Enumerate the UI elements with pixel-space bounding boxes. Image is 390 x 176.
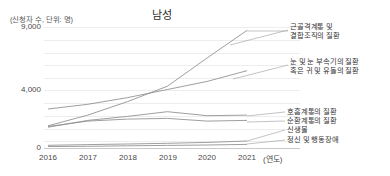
x-tick-2019: 2019 bbox=[159, 153, 177, 162]
series-label-eye-ear-line2: 혹은 귀 및 유돌의 질환 bbox=[290, 66, 359, 75]
x-tick-2020: 2020 bbox=[198, 153, 216, 162]
x-tick-2021: 2021 bbox=[238, 153, 256, 162]
x-tick-2016: 2016 bbox=[39, 153, 57, 162]
x-tick-2017: 2017 bbox=[79, 153, 97, 162]
series-line-respiratory bbox=[48, 112, 247, 128]
y-tick-4000: 4,000 bbox=[21, 85, 41, 94]
series-label-musculoskeletal: 근골격계통 및 결합조직의 질환 bbox=[290, 22, 340, 40]
leader-circulatory bbox=[247, 121, 285, 122]
series-line-circulatory bbox=[48, 118, 247, 126]
x-tick-2018: 2018 bbox=[119, 153, 137, 162]
label-leader-lines bbox=[230, 30, 288, 144]
series-label-musculoskeletal-line1: 근골격계통 및 bbox=[290, 22, 340, 31]
x-axis-unit-label: (연도) bbox=[263, 153, 282, 164]
chart-container: (신청자 수, 단위: 명) 남성 bbox=[0, 0, 390, 176]
series-label-mental: 정신 및 행동장애 bbox=[287, 135, 339, 144]
series-label-neoplasm: 신생물 bbox=[287, 125, 308, 134]
y-tick-0: 0 bbox=[37, 143, 41, 152]
series-label-eye-ear-line1: 눈 및 눈 부속기의 질환 bbox=[290, 57, 359, 66]
series-label-respiratory: 호흡계통의 질환 bbox=[287, 107, 337, 116]
y-tick-9000: 9,000 bbox=[21, 22, 41, 31]
series-label-eye-ear: 눈 및 눈 부속기의 질환 혹은 귀 및 유돌의 질환 bbox=[290, 57, 359, 75]
leader-musculoskeletal-2 bbox=[230, 30, 288, 45]
leader-neoplasm bbox=[247, 130, 285, 141]
leader-respiratory bbox=[247, 112, 285, 116]
gridlines bbox=[44, 27, 300, 141]
series-label-musculoskeletal-line2: 결합조직의 질환 bbox=[290, 31, 340, 40]
series-label-circulatory: 순환계통의 질환 bbox=[287, 116, 337, 125]
